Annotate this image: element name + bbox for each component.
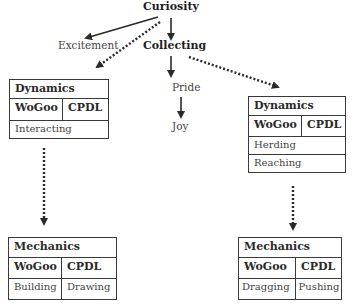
dynamics-right-title: Dynamics [249, 97, 319, 115]
dynamics-right-item-herding: Herding [249, 137, 301, 154]
node-excitement: Excitement [58, 39, 118, 51]
dynamics-right-wogoo: WoGoo [249, 116, 302, 136]
dynamics-right-item-reaching: Reaching [249, 155, 307, 172]
dynamics-box-left: Dynamics WoGoo CPDL Interacting [9, 79, 109, 139]
dynamics-left-cpdl: CPDL [63, 99, 107, 120]
node-pride: Pride [172, 81, 200, 93]
edge-collecting-dynamics-right [189, 57, 278, 87]
dynamics-box-right: Dynamics WoGoo CPDL Herding Reaching [248, 96, 346, 173]
mechanics-right-item-pushing: Pushing [296, 279, 345, 299]
dynamics-right-cpdl: CPDL [302, 116, 346, 136]
mechanics-right-title: Mechanics [239, 238, 315, 257]
dynamics-left-title: Dynamics [10, 80, 80, 98]
mechanics-left-title: Mechanics [9, 238, 85, 257]
mechanics-left-item-drawing: Drawing [62, 279, 115, 299]
mechanics-left-item-building: Building [9, 279, 62, 299]
mechanics-right-cpdl: CPDL [296, 258, 340, 278]
mechanics-box-left: Mechanics WoGoo CPDL Building Drawing [8, 237, 117, 300]
mechanics-right-wogoo: WoGoo [239, 258, 296, 278]
mechanics-box-right: Mechanics WoGoo CPDL Dragging Pushing [238, 237, 342, 300]
dynamics-left-wogoo: WoGoo [10, 99, 63, 120]
mechanics-left-cpdl: CPDL [62, 258, 106, 278]
edge-curiosity-excitement [86, 17, 158, 38]
mechanics-right-item-dragging: Dragging [239, 279, 296, 299]
node-curiosity: Curiosity [143, 0, 199, 13]
mechanics-left-wogoo: WoGoo [9, 258, 62, 278]
node-collecting: Collecting [143, 39, 206, 52]
node-joy: Joy [172, 120, 188, 132]
dynamics-left-item-interacting: Interacting [10, 121, 77, 138]
